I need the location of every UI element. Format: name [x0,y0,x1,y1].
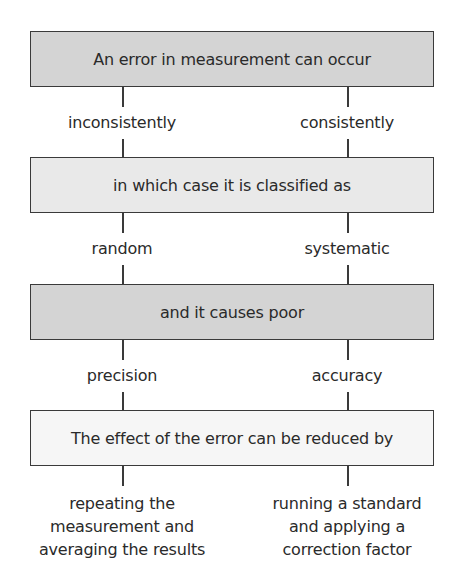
label-precision: precision [22,366,222,386]
connector-line [347,340,349,360]
connector-line [347,87,349,107]
box-causes-poor: and it causes poor [30,284,434,340]
box-reduction-text: The effect of the error can be reduced b… [71,429,393,448]
connector-line [122,392,124,411]
box-reduction: The effect of the error can be reduced b… [30,410,434,466]
connector-line [122,213,124,233]
connector-line [122,139,124,158]
remedy-line: measurement and [12,515,232,538]
connector-line [347,139,349,158]
remedy-line: repeating the [12,492,232,515]
box-classification-text: in which case it is classified as [113,176,351,195]
label-accuracy: accuracy [247,366,447,386]
label-consistently: consistently [247,113,447,133]
label-systematic-remedy: running a standard and applying a correc… [237,492,457,561]
connector-line [122,340,124,360]
remedy-line: running a standard [237,492,457,515]
remedy-line: and applying a [237,515,457,538]
remedy-line: averaging the results [12,538,232,561]
connector-line [347,466,349,486]
box-error-occurs-text: An error in measurement can occur [93,50,371,69]
connector-line [122,466,124,486]
label-random: random [22,239,222,259]
label-inconsistently: inconsistently [22,113,222,133]
label-systematic: systematic [247,239,447,259]
remedy-line: correction factor [237,538,457,561]
box-error-occurs: An error in measurement can occur [30,31,434,87]
connector-line [347,265,349,285]
connector-line [347,392,349,411]
box-classification: in which case it is classified as [30,157,434,213]
connector-line [122,265,124,285]
connector-line [122,87,124,107]
label-random-remedy: repeating the measurement and averaging … [12,492,232,561]
connector-line [347,213,349,233]
box-causes-poor-text: and it causes poor [160,303,304,322]
